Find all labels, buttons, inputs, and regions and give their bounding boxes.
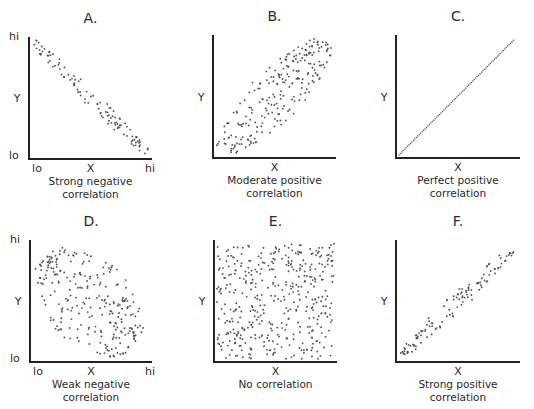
- y-axis-label: Y: [380, 295, 388, 308]
- x-tick-lo: lo: [33, 365, 43, 378]
- x-axis-label: X: [271, 161, 279, 174]
- x-axis-label: X: [454, 161, 462, 174]
- panel-caption: Perfect positive: [417, 174, 498, 186]
- panel-f: F.YXStrong positivecorrelation: [380, 213, 520, 403]
- panel-title: B.: [267, 8, 281, 24]
- panel-title: E.: [269, 213, 282, 229]
- scatter-points: [35, 247, 145, 358]
- panel-e: E.YXNo correlation: [198, 213, 337, 390]
- panel-c: C.YXPerfect positivecorrelation: [380, 8, 520, 199]
- scatter-points: [398, 40, 514, 156]
- y-tick-hi: hi: [9, 30, 19, 43]
- x-axis-label: X: [454, 365, 462, 378]
- y-axis-label: Y: [380, 91, 388, 104]
- scatter-points: [33, 39, 149, 154]
- y-tick-lo: lo: [9, 149, 19, 162]
- scatter-points: [400, 251, 515, 355]
- correlation-figure: A.YXhilolohiStrong negativecorrelationB.…: [0, 0, 534, 409]
- x-axis-label: X: [272, 365, 280, 378]
- panel-title: D.: [83, 213, 98, 229]
- panel-a: A.YXhilolohiStrong negativecorrelation: [9, 10, 155, 200]
- panel-caption: No correlation: [239, 378, 313, 390]
- panel-caption: correlation: [430, 391, 486, 403]
- x-axis-label: X: [87, 365, 95, 378]
- scatter-points: [216, 243, 335, 360]
- panel-caption: correlation: [62, 188, 118, 200]
- panel-caption: Weak negative: [52, 378, 130, 390]
- y-tick-lo: lo: [10, 352, 20, 365]
- scatter-points: [216, 38, 332, 154]
- x-axis-label: X: [87, 162, 95, 175]
- panel-caption: correlation: [430, 187, 486, 199]
- y-axis-label: Y: [198, 295, 206, 308]
- y-axis-label: Y: [14, 295, 22, 308]
- x-tick-lo: lo: [32, 162, 42, 175]
- x-tick-hi: hi: [145, 365, 155, 378]
- panel-title: A.: [84, 10, 98, 26]
- panel-title: F.: [453, 213, 463, 229]
- y-axis-label: Y: [13, 92, 21, 105]
- panel-d: D.YXhilolohiWeak negativecorrelation: [10, 213, 155, 403]
- panel-caption: correlation: [246, 187, 302, 199]
- x-tick-hi: hi: [145, 162, 155, 175]
- panel-caption: Strong positive: [418, 378, 497, 390]
- panel-caption: Moderate positive: [227, 174, 321, 186]
- axes: [214, 240, 337, 362]
- y-tick-hi: hi: [10, 233, 20, 246]
- panel-b: B.YXModerate positivecorrelation: [197, 8, 336, 199]
- panel-caption: correlation: [63, 391, 119, 403]
- y-axis-label: Y: [197, 91, 205, 104]
- panel-title: C.: [451, 8, 465, 24]
- panel-caption: Strong negative: [49, 175, 133, 187]
